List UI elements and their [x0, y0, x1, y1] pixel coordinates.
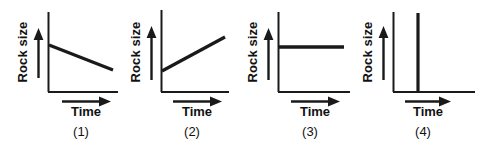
data-line-increasing — [162, 37, 225, 71]
panel-2-x-axis-label: Time — [162, 104, 232, 119]
y-axis-arrow-icon — [379, 26, 389, 80]
panel-3-y-axis-label: Rock size — [244, 7, 262, 97]
graph-panel-3: Rock size Time (3) — [230, 0, 350, 147]
panel-1-y-axis-label: Rock size — [14, 7, 32, 97]
graph-panel-4: Rock size Time (4) — [345, 0, 465, 147]
panel-4-y-axis-label: Rock size — [359, 7, 377, 97]
panel-3-x-axis-label: Time — [280, 104, 350, 119]
data-line-decreasing — [49, 45, 113, 70]
panel-4-x-axis-label: Time — [393, 104, 463, 119]
y-axis-arrow-icon — [34, 28, 44, 78]
y-axis-arrow-icon — [147, 26, 157, 80]
panel-2-y-axis-label: Rock size — [127, 7, 145, 97]
y-axis-arrow-icon — [264, 28, 274, 80]
panel-4-caption: (4) — [393, 124, 453, 139]
panel-1-caption: (1) — [51, 124, 111, 139]
graph-panel-2: Rock size Time (2) — [113, 0, 233, 147]
graph-panel-1: Rock size Time (1) — [0, 0, 120, 147]
panel-3-caption: (3) — [280, 124, 340, 139]
panel-1-x-axis-label: Time — [51, 104, 121, 119]
panel-2-caption: (2) — [162, 124, 222, 139]
four-graph-figure: Rock size Time (1) Rock size Time (2) — [0, 0, 481, 147]
